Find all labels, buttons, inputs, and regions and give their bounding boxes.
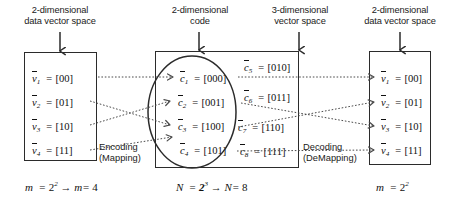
decode-wire-c2-v3 <box>241 103 374 126</box>
encode-wire-v3-c2 <box>90 101 170 125</box>
diagram-canvas: 2-dimensional data vector space 2-dimens… <box>0 0 457 203</box>
encode-wire-v4-c4 <box>90 137 172 150</box>
code-subset-ellipse <box>148 56 236 168</box>
decode-wire-c4-v4 <box>237 150 374 151</box>
connector-layer <box>0 0 457 203</box>
